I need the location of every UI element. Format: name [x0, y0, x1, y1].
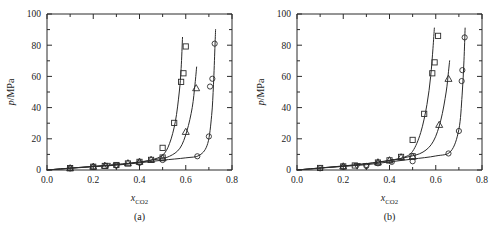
y-tick-label: 100 [27, 9, 42, 19]
data-marker-square [160, 145, 165, 150]
y-tick-label: 40 [32, 103, 42, 113]
data-marker-square [172, 120, 177, 125]
panel-caption: (a) [134, 211, 145, 223]
y-tick-label: 100 [277, 9, 292, 19]
x-tick-label: 0.4 [384, 175, 396, 185]
curve-isotherm-3-circle [297, 28, 465, 170]
data-marker-square [179, 79, 184, 84]
figure-container: 0.00.20.40.60.8020406080100xCO2p/MPa(a) … [0, 0, 499, 227]
y-tick-label: 20 [32, 134, 42, 144]
x-tick-label: 0.0 [41, 175, 53, 185]
x-tick-label: 0.6 [430, 175, 442, 185]
y-tick-label: 80 [282, 41, 292, 51]
x-tick-label: 0.8 [476, 175, 488, 185]
x-tick-label: 0.4 [134, 175, 146, 185]
plot-frame [47, 14, 232, 170]
chart-panel-b: 0.00.20.40.60.8020406080100xCO2p/MPa(b) [250, 0, 499, 227]
chart-panel-a: 0.00.20.40.60.8020406080100xCO2p/MPa(a) [0, 0, 249, 227]
data-marker-square [410, 137, 415, 142]
data-marker-square [183, 44, 188, 49]
x-axis-title: xCO2 [130, 192, 149, 205]
y-tick-label: 20 [282, 134, 292, 144]
y-tick-label: 40 [282, 103, 292, 113]
y-tick-label: 80 [32, 41, 42, 51]
curve-isotherm-2-triangle [47, 67, 197, 170]
data-marker-square [435, 33, 440, 38]
y-tick-label: 0 [286, 165, 291, 175]
curve-isotherm-1-square [297, 28, 434, 170]
data-marker-triangle-up [193, 85, 200, 91]
x-axis-title: xCO2 [380, 192, 399, 205]
y-axis-title: p/MPa [255, 78, 266, 106]
data-marker-square [181, 71, 186, 76]
y-axis-title: p/MPa [5, 78, 16, 106]
y-tick-label: 0 [36, 165, 41, 175]
panel-caption: (b) [384, 211, 396, 223]
plot-svg-b: 0.00.20.40.60.8020406080100xCO2p/MPa(b) [250, 0, 499, 227]
data-marker-square [432, 60, 437, 65]
curve-isotherm-3-circle [47, 30, 216, 170]
data-marker-circle [207, 84, 212, 89]
data-marker-circle [460, 68, 465, 73]
y-tick-label: 60 [282, 72, 292, 82]
x-tick-label: 0.0 [291, 175, 303, 185]
plot-svg-a: 0.00.20.40.60.8020406080100xCO2p/MPa(a) [0, 0, 249, 227]
x-tick-label: 0.8 [226, 175, 238, 185]
x-tick-label: 0.6 [180, 175, 192, 185]
y-tick-label: 60 [32, 72, 42, 82]
x-tick-label: 0.2 [337, 175, 349, 185]
x-tick-label: 0.2 [87, 175, 99, 185]
